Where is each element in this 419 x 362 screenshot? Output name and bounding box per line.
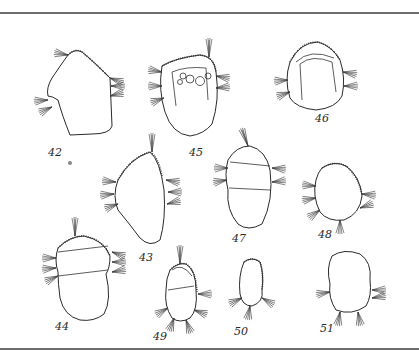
figure-44-specimen	[42, 217, 127, 320]
figure-label-51: 51	[320, 322, 334, 335]
figure-46-specimen	[274, 42, 358, 110]
plate-drawings	[0, 0, 419, 362]
figure-label-43: 43	[139, 251, 153, 264]
figure-47-specimen	[213, 127, 287, 228]
figure-label-48: 48	[318, 228, 332, 241]
figure-49-specimen	[154, 245, 212, 335]
figure-label-42: 42	[48, 146, 62, 159]
figure-45-specimen	[148, 38, 231, 136]
figure-43-specimen	[100, 133, 182, 244]
figure-label-44: 44	[55, 320, 69, 333]
figure-label-47: 47	[232, 232, 246, 245]
figure-label-45: 45	[189, 146, 203, 159]
illustration-plate: 42 43 44 45 46 47 48 49 50 51	[0, 0, 419, 362]
figure-51-specimen	[316, 251, 387, 326]
figure-48-specimen	[302, 163, 377, 234]
figure-label-46: 46	[315, 112, 329, 125]
figure-label-50: 50	[234, 325, 248, 338]
figure-50-specimen	[228, 259, 277, 320]
figure-label-49: 49	[153, 330, 167, 343]
